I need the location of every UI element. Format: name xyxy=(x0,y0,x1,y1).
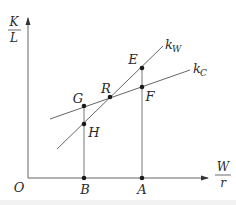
label-E: E xyxy=(127,52,138,67)
economics-diagram: K L W r O k W k C E F R G H B A xyxy=(0,0,236,205)
svg-text:W: W xyxy=(172,44,182,54)
point-H xyxy=(82,122,87,127)
label-B: B xyxy=(79,182,90,197)
point-B xyxy=(82,176,87,181)
label-F: F xyxy=(144,89,155,104)
point-E xyxy=(140,66,145,71)
bottom-divider xyxy=(0,200,236,205)
label-R: R xyxy=(100,81,111,96)
label-G: G xyxy=(73,91,83,106)
line-kc xyxy=(50,70,190,119)
x-axis-numerator: W xyxy=(217,160,231,174)
label-A: A xyxy=(136,182,146,197)
point-A xyxy=(140,176,145,181)
y-axis-numerator: K xyxy=(9,15,20,29)
label-H: H xyxy=(87,125,100,140)
y-axis-label: K L xyxy=(8,15,21,45)
x-axis-denominator: r xyxy=(220,176,227,190)
svg-text:C: C xyxy=(200,68,207,78)
origin-label: O xyxy=(14,180,25,195)
label-kw: k W xyxy=(165,37,182,54)
x-axis-label: W r xyxy=(215,160,231,190)
point-F xyxy=(140,85,145,90)
label-kc: k C xyxy=(193,61,207,78)
y-axis-denominator: L xyxy=(9,31,18,45)
